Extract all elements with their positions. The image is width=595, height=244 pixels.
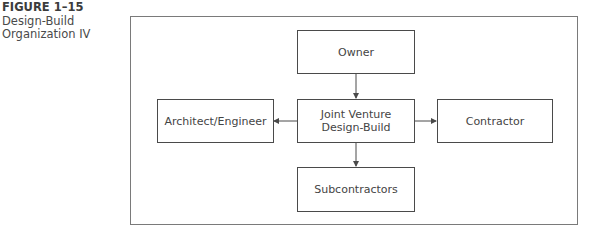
node-joint-venture: Joint Venture Design-Build bbox=[297, 99, 415, 143]
node-contractor-label: Contractor bbox=[466, 115, 525, 128]
node-architect-label: Architect/Engineer bbox=[164, 115, 266, 128]
node-owner: Owner bbox=[297, 30, 415, 74]
node-owner-label: Owner bbox=[338, 46, 374, 59]
node-jv-label-line1: Joint Venture bbox=[321, 108, 392, 121]
node-jv-label-line2: Design-Build bbox=[321, 121, 390, 134]
node-subcontractors: Subcontractors bbox=[297, 167, 415, 212]
node-contractor: Contractor bbox=[437, 99, 553, 143]
node-architect-engineer: Architect/Engineer bbox=[157, 99, 274, 143]
node-subcontractors-label: Subcontractors bbox=[314, 183, 398, 196]
